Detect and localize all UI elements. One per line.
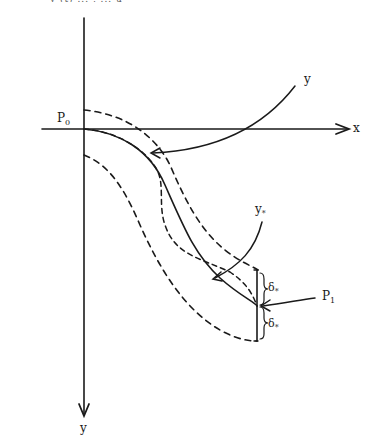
upper-brace (260, 273, 268, 305)
delta-upper-label: δ* (268, 282, 279, 296)
leader-y (153, 86, 295, 153)
delta-lower-label: δ* (268, 318, 279, 332)
curve-y-label: y (304, 73, 311, 85)
tube-lower-boundary (84, 155, 257, 341)
trajectory-y-star (84, 129, 257, 306)
trajectory-y (84, 129, 257, 306)
point-p0-label: P0 (57, 112, 70, 127)
x-axis-label: x (353, 122, 360, 134)
y-axis-label: y (80, 422, 87, 434)
leader-p1 (263, 298, 315, 306)
lower-brace (260, 307, 268, 339)
curve-y-star-label: y* (255, 203, 266, 218)
tube-neighborhood-diagram (0, 0, 367, 438)
point-p1-label: P1 (322, 290, 335, 305)
